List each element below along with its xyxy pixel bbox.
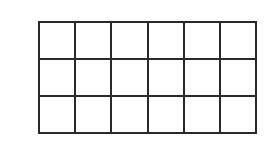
grid-cell [221,97,257,134]
grid-cell [149,23,185,60]
grid-cell [40,97,76,134]
grid-diagram [38,21,257,134]
grid-cell [185,97,221,134]
grid-cell [112,60,148,97]
grid-cell [112,97,148,134]
grid-cell [40,23,76,60]
grid-cell [221,60,257,97]
grid-cell [221,23,257,60]
grid-cell [149,60,185,97]
grid-cell [76,60,112,97]
grid-cell [40,60,76,97]
grid-cell [76,23,112,60]
grid-cell [185,60,221,97]
grid-cell [149,97,185,134]
grid-cell [76,97,112,134]
grid-cell [185,23,221,60]
grid-cell [112,23,148,60]
